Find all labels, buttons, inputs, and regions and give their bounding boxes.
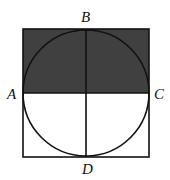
- label-D: D: [81, 161, 93, 177]
- label-A: A: [6, 86, 17, 102]
- diagram-canvas: A B C D: [0, 0, 170, 180]
- label-B: B: [81, 9, 90, 25]
- label-C: C: [154, 86, 165, 102]
- geometry-figure: A B C D: [0, 0, 170, 180]
